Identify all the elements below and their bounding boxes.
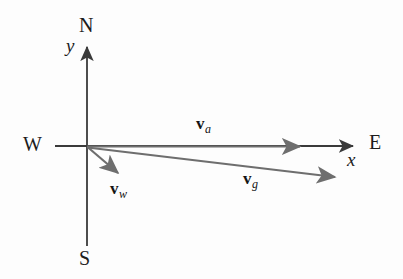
v_g-subscript: g [252,177,258,191]
compass-label-north: N [79,15,94,35]
x-axis-label: x [347,150,355,169]
vector-diagram-figure: N S W E y x va vw vg [0,0,403,279]
y-axis-label: y [66,36,74,55]
v_g-symbol: v [243,169,252,188]
compass-label-east: E [369,132,382,152]
compass-label-west: W [23,134,42,154]
v_a-subscript: a [205,122,211,136]
wind-velocity-vector-label: vw [110,180,127,197]
ground-velocity-vector-arrow [88,148,336,178]
compass-label-south: S [79,248,90,268]
v_a-symbol: v [196,114,205,133]
v_w-subscript: w [119,187,127,201]
air-velocity-vector-label: va [196,115,211,132]
ground-velocity-vector-label: vg [243,170,258,187]
v_w-symbol: v [110,179,119,198]
diagram-canvas [0,0,403,279]
